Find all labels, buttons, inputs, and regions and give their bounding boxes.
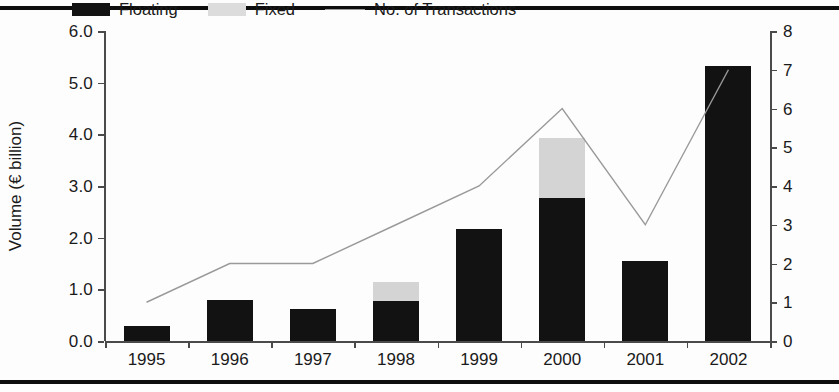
bottom-rule bbox=[0, 380, 839, 384]
y-tick-label-left: 1.0 bbox=[69, 281, 93, 298]
y-tick-label-right: 2 bbox=[783, 255, 792, 272]
x-tick-label: 1995 bbox=[128, 351, 166, 368]
y-tick-label-left: 6.0 bbox=[69, 23, 93, 40]
y-tick-right bbox=[771, 70, 777, 72]
y-tick-label-right: 5 bbox=[783, 139, 792, 156]
x-tick-label: 2000 bbox=[543, 351, 581, 368]
x-tick bbox=[105, 342, 107, 348]
x-tick-label: 1996 bbox=[211, 351, 249, 368]
legend-label-fixed: Fixed bbox=[255, 0, 295, 19]
chart-legend: Floating Fixed No. of Transactions bbox=[72, 0, 546, 19]
x-tick-label: 1998 bbox=[377, 351, 415, 368]
legend-item-transactions: No. of Transactions bbox=[325, 0, 516, 19]
x-tick bbox=[354, 342, 356, 348]
y-tick-label-right: 4 bbox=[783, 178, 792, 195]
y-tick-label-right: 6 bbox=[783, 100, 792, 117]
legend-label-floating: Floating bbox=[119, 0, 178, 19]
y-tick-left bbox=[98, 341, 104, 343]
y-tick-right bbox=[771, 147, 777, 149]
y-tick-label-left: 2.0 bbox=[69, 229, 93, 246]
plot-area: Volume (€ billion) No. of Transactions 0… bbox=[105, 31, 770, 341]
y-tick-left bbox=[98, 186, 104, 188]
x-tick bbox=[687, 342, 689, 348]
y-tick-left bbox=[98, 31, 104, 33]
legend-item-floating: Floating bbox=[72, 0, 178, 19]
x-tick-label: 2001 bbox=[626, 351, 664, 368]
y-tick-label-left: 4.0 bbox=[69, 126, 93, 143]
y-axis-left-title: Volume (€ billion) bbox=[6, 121, 26, 251]
x-tick bbox=[188, 342, 190, 348]
y-tick-label-left: 5.0 bbox=[69, 74, 93, 91]
legend-swatch-fixed-icon bbox=[208, 3, 246, 16]
y-tick-left bbox=[98, 83, 104, 85]
line-series-layer bbox=[105, 31, 770, 341]
y-tick-label-right: 3 bbox=[783, 216, 792, 233]
x-tick bbox=[521, 342, 523, 348]
legend-line-marker-icon bbox=[325, 3, 365, 16]
x-tick bbox=[604, 342, 606, 348]
x-tick bbox=[438, 342, 440, 348]
y-tick-left bbox=[98, 238, 104, 240]
y-tick-right bbox=[771, 341, 777, 343]
y-tick-label-right: 8 bbox=[783, 23, 792, 40]
y-tick-right bbox=[771, 264, 777, 266]
y-tick-right bbox=[771, 109, 777, 111]
y-tick-left bbox=[98, 289, 104, 291]
x-tick-label: 2002 bbox=[710, 351, 748, 368]
y-tick-right bbox=[771, 186, 777, 188]
y-tick-right bbox=[771, 225, 777, 227]
y-tick-label-right: 1 bbox=[783, 294, 792, 311]
y-tick-label-left: 0.0 bbox=[69, 333, 93, 350]
figure-container: Floating Fixed No. of Transactions Volum… bbox=[0, 0, 839, 392]
legend-item-fixed: Fixed bbox=[208, 0, 295, 19]
y-tick-label-right: 0 bbox=[783, 333, 792, 350]
y-tick-right bbox=[771, 302, 777, 304]
x-tick bbox=[271, 342, 273, 348]
x-tick bbox=[770, 342, 772, 348]
y-tick-right bbox=[771, 31, 777, 33]
x-tick-label: 1997 bbox=[294, 351, 332, 368]
legend-label-transactions: No. of Transactions bbox=[374, 0, 516, 19]
y-tick-label-right: 7 bbox=[783, 61, 792, 78]
y-tick-left bbox=[98, 134, 104, 136]
x-tick-label: 1999 bbox=[460, 351, 498, 368]
y-tick-label-left: 3.0 bbox=[69, 178, 93, 195]
legend-swatch-floating-icon bbox=[72, 3, 110, 16]
